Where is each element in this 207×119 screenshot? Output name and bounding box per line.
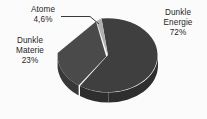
slice-label-dunkle-materie-line1: Dunkle bbox=[2, 36, 58, 46]
slice-label-dunkle-materie-line2: Materie bbox=[2, 46, 58, 56]
slice-label-atome: Atome 4,6% bbox=[16, 5, 70, 25]
slice-label-dunkle-materie: Dunkle Materie 23% bbox=[2, 36, 58, 67]
slice-label-dunkle-materie-value: 23% bbox=[2, 56, 58, 66]
slice-label-atome-name: Atome bbox=[16, 5, 70, 15]
pie-top-faces bbox=[58, 18, 158, 92]
slice-label-dunkle-energie: Dunkle Energie 72% bbox=[152, 8, 204, 39]
slice-label-dunkle-energie-line2: Energie bbox=[152, 18, 204, 28]
slice-label-dunkle-energie-value: 72% bbox=[152, 28, 204, 38]
pie-chart-figure: Atome 4,6% Dunkle Materie 23% Dunkle Ene… bbox=[0, 0, 207, 119]
slice-label-atome-value: 4,6% bbox=[16, 15, 70, 25]
slice-label-dunkle-energie-line1: Dunkle bbox=[152, 8, 204, 18]
